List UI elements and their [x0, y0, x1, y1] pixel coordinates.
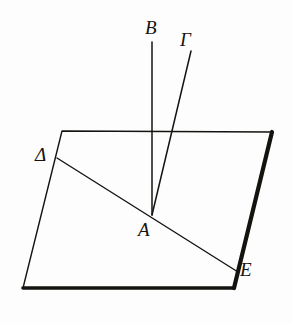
vertex-label-b: B: [145, 18, 157, 37]
vertex-label-delta: Δ: [35, 145, 46, 164]
geometry-figure: B Γ Δ A E: [0, 0, 293, 323]
vertex-label-gamma: Γ: [180, 30, 191, 49]
vertex-label-a: A: [138, 220, 150, 239]
line-delta-e: [57, 158, 238, 272]
vertex-label-e: E: [240, 260, 252, 279]
plane-quadrilateral: [23, 131, 272, 288]
ray-a-gamma: [152, 51, 191, 215]
